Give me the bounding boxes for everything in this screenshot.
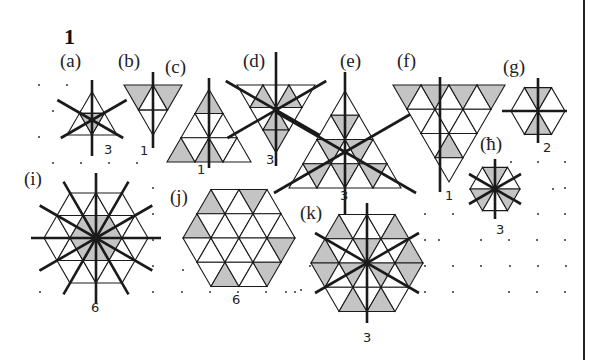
symmetry-order-a: 3: [104, 142, 112, 157]
symmetry-diagram: 1 (a)3(b)1(c)1(d)3(e)3(f)1(g)2(ħ)3(i)6(j…: [0, 0, 590, 360]
figure-g: [502, 78, 567, 143]
figure-label-g: (g): [503, 56, 525, 78]
symmetry-order-f: 1: [445, 188, 453, 203]
symmetry-order-h: 3: [496, 222, 504, 237]
symmetry-order-b: 1: [140, 143, 148, 158]
symmetry-order-k: 3: [363, 330, 371, 345]
figures-canvas: [0, 0, 590, 360]
symmetry-order-g: 2: [543, 140, 551, 155]
figure-label-i: (i): [24, 168, 42, 190]
figure-h: [469, 159, 521, 219]
figure-label-f: (f): [397, 50, 416, 72]
figure-i: [31, 173, 161, 303]
figure-label-d: (d): [243, 50, 265, 72]
frame-border: [583, 0, 585, 360]
figure-label-j: (j): [170, 186, 188, 208]
symmetry-order-e: 3: [340, 188, 348, 203]
exercise-number: 1: [64, 24, 75, 50]
figure-j: [183, 190, 295, 287]
figure-label-h: (ħ): [480, 133, 502, 155]
symmetry-order-i: 6: [91, 300, 99, 315]
figure-b: [124, 72, 182, 148]
figure-a: [57, 80, 126, 156]
figure-label-k: (k): [300, 202, 322, 224]
figure-label-c: (c): [165, 56, 186, 78]
symmetry-order-c: 1: [197, 162, 205, 177]
figure-k: [311, 203, 423, 323]
figure-label-e: (e): [340, 50, 361, 72]
figure-c: [167, 78, 251, 168]
symmetry-order-d: 3: [266, 152, 274, 167]
figure-label-a: (a): [60, 50, 81, 72]
symmetry-order-j: 6: [232, 292, 240, 307]
figure-label-b: (b): [118, 50, 140, 72]
